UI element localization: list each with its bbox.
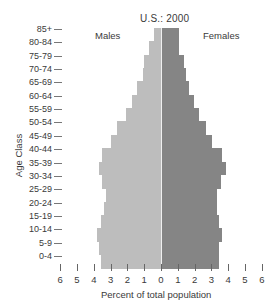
- bar-males: [101, 215, 161, 229]
- x-tick-label: 4: [88, 274, 100, 285]
- bar-males: [102, 175, 161, 189]
- x-tick: [77, 264, 78, 271]
- x-tick: [195, 264, 196, 271]
- age-class-label: 40-44: [4, 144, 52, 154]
- x-tick: [211, 264, 212, 271]
- x-tick-label: 6: [54, 274, 66, 285]
- x-tick: [262, 264, 263, 271]
- bar-females: [162, 162, 226, 176]
- bar-males: [149, 41, 161, 55]
- bar-females: [162, 68, 186, 82]
- y-tick: [54, 42, 62, 43]
- age-class-label: 5-9: [4, 238, 52, 248]
- x-tick: [228, 264, 229, 271]
- x-tick-label: 1: [138, 274, 150, 285]
- bar-males: [126, 108, 161, 122]
- x-tick-label: 4: [222, 274, 234, 285]
- y-tick: [54, 256, 62, 257]
- bar-males: [137, 81, 161, 95]
- bar-males: [104, 202, 161, 216]
- bar-males: [144, 55, 161, 69]
- x-tick-label: 2: [189, 274, 201, 285]
- x-tick-label: 5: [71, 274, 83, 285]
- y-tick: [54, 56, 62, 57]
- x-tick-label: 1: [172, 274, 184, 285]
- bar-females: [162, 41, 179, 55]
- y-tick: [54, 216, 62, 217]
- age-class-label: 20-24: [4, 198, 52, 208]
- x-tick: [144, 264, 145, 271]
- age-class-label: 15-19: [4, 211, 52, 221]
- bar-females: [162, 135, 212, 149]
- bar-males: [111, 135, 161, 149]
- x-tick-label: 5: [239, 274, 251, 285]
- bar-males: [143, 68, 161, 82]
- legend-males: Males: [95, 30, 120, 41]
- x-tick: [60, 264, 61, 271]
- bar-females: [162, 242, 219, 256]
- bar-females: [162, 81, 189, 95]
- bar-males: [106, 188, 161, 202]
- bar-males: [99, 242, 161, 256]
- y-tick: [54, 229, 62, 230]
- y-tick: [54, 243, 62, 244]
- bar-females: [162, 148, 222, 162]
- age-class-label: 45-49: [4, 131, 52, 141]
- y-tick: [54, 82, 62, 83]
- bar-males: [132, 95, 161, 109]
- bar-females: [162, 175, 221, 189]
- x-tick-label: 6: [256, 274, 268, 285]
- age-class-label: 35-39: [4, 158, 52, 168]
- x-axis-label: Percent of total population: [101, 289, 211, 300]
- age-class-label: 55-59: [4, 104, 52, 114]
- bar-females: [162, 55, 184, 69]
- legend-females: Females: [203, 30, 239, 41]
- age-class-label: 50-54: [4, 117, 52, 127]
- y-tick: [54, 109, 62, 110]
- x-tick-label: 3: [205, 274, 217, 285]
- age-class-label: 25-29: [4, 184, 52, 194]
- center-divider: [161, 28, 162, 270]
- y-tick: [54, 29, 62, 30]
- x-tick-label: 0: [155, 274, 167, 285]
- chart-title: U.S.: 2000: [140, 13, 189, 24]
- bar-females: [162, 228, 222, 242]
- x-tick: [161, 264, 162, 271]
- x-tick: [245, 264, 246, 271]
- age-class-label: 75-79: [4, 51, 52, 61]
- bar-females: [162, 215, 219, 229]
- age-class-label: 30-34: [4, 171, 52, 181]
- y-tick: [54, 189, 62, 190]
- y-tick: [54, 176, 62, 177]
- x-tick-label: 3: [105, 274, 117, 285]
- bar-males: [102, 148, 161, 162]
- age-class-label: 85+: [4, 24, 52, 34]
- age-class-label: 10-14: [4, 224, 52, 234]
- y-tick: [54, 163, 62, 164]
- age-class-label: 60-64: [4, 91, 52, 101]
- bar-females: [162, 202, 217, 216]
- age-class-label: 0-4: [4, 251, 52, 261]
- bar-males: [154, 28, 161, 42]
- bar-females: [162, 95, 194, 109]
- y-tick: [54, 69, 62, 70]
- age-class-label: 80-84: [4, 37, 52, 47]
- bar-males: [101, 255, 161, 269]
- bar-females: [162, 188, 217, 202]
- x-tick: [127, 264, 128, 271]
- x-tick: [111, 264, 112, 271]
- bar-females: [162, 28, 179, 42]
- bar-males: [99, 162, 161, 176]
- y-tick: [54, 203, 62, 204]
- x-tick-label: 2: [121, 274, 133, 285]
- y-tick: [54, 136, 62, 137]
- bar-males: [117, 121, 161, 135]
- y-tick: [54, 96, 62, 97]
- x-tick: [94, 264, 95, 271]
- bar-males: [97, 228, 161, 242]
- y-tick: [54, 122, 62, 123]
- age-class-label: 65-69: [4, 77, 52, 87]
- bar-females: [162, 108, 199, 122]
- bar-females: [162, 121, 206, 135]
- y-tick: [54, 149, 62, 150]
